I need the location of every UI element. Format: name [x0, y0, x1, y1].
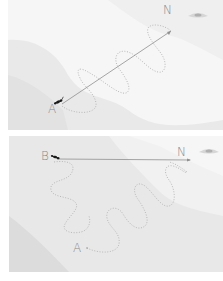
point-a-label: A	[73, 242, 81, 254]
nest-label: N	[163, 4, 172, 16]
point-a-label: A	[48, 103, 56, 115]
bottom-panel: B N A	[9, 136, 223, 272]
point-b-label: B	[41, 150, 49, 162]
origin-dot	[86, 247, 88, 249]
nest-label: N	[177, 146, 186, 158]
top-panel-drawing	[8, 0, 223, 130]
top-panel: A N	[8, 0, 223, 130]
homing-vector	[62, 31, 171, 104]
